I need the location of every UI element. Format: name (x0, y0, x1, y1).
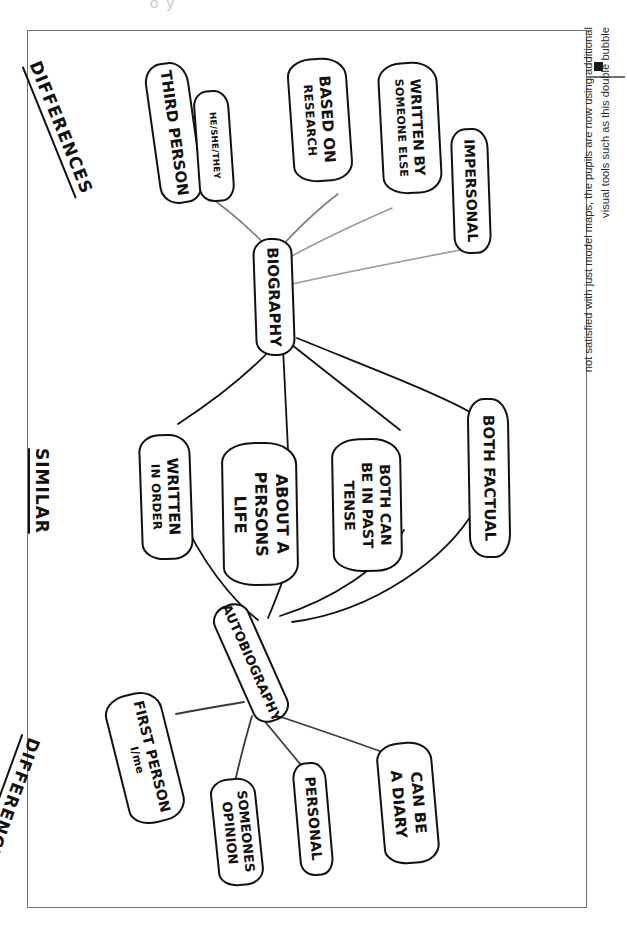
heading-similar-label: SIMILAR (32, 448, 52, 534)
heading-similar: SIMILAR (28, 448, 52, 534)
bubble-written-by-someone-else[interactable]: WRITTEN BY SOMEONE ELSE (377, 61, 444, 196)
double-bubble-map: DIFFERENCES SIMILAR DIFFERENCES THIRD PE… (0, 0, 627, 936)
bubble-biography[interactable]: BIOGRAPHY (252, 237, 296, 356)
bubble-biography-label: BIOGRAPHY (264, 247, 284, 347)
bubble-about-a-persons-life[interactable]: ABOUT A PERSONS LIFE (221, 441, 300, 586)
bubble-both-factual-label: BOTH FACTUAL (480, 415, 498, 542)
bubble-both-factual[interactable]: BOTH FACTUAL (467, 398, 512, 559)
bubble-third-person-detail[interactable]: HE/SHE/THEY (192, 89, 236, 203)
bubble-about-line1: ABOUT A (270, 471, 292, 556)
bubble-can-be-a-diary[interactable]: CAN BE A DIARY (375, 740, 441, 866)
bubble-about-line2: PERSONS (249, 471, 271, 556)
bubble-written-in-order[interactable]: WRITTEN IN ORDER (138, 433, 194, 561)
bubble-based-on-research[interactable]: BASED ON RESEARCH (286, 56, 355, 184)
bubble-both-past-tense[interactable]: BOTH CAN BE IN PAST TENSE (331, 437, 403, 572)
bubble-past-tense-line1: BOTH CAN (375, 461, 395, 548)
bubble-impersonal[interactable]: IMPERSONAL (450, 127, 492, 254)
bubble-about-line3: LIFE (228, 472, 250, 557)
bubble-third-person-line2: HE/SHE/THEY (207, 112, 221, 179)
bubble-past-tense-line2: BE IN PAST (357, 462, 377, 549)
scanned-page: o y not satisfied with just model maps, … (0, 0, 627, 936)
heading-underline (28, 448, 30, 534)
bubble-third-person-line1: THIRD PERSON (157, 69, 191, 197)
bubble-personal-label: PERSONAL (302, 776, 324, 861)
bubble-written-in-order-line1: WRITTEN (163, 458, 184, 536)
bubble-impersonal-label: IMPERSONAL (462, 139, 481, 243)
bubble-past-tense-line3: TENSE (339, 462, 359, 549)
